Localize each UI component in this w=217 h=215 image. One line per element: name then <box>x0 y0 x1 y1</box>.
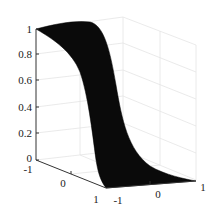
right-tick-label: 1 <box>200 181 206 193</box>
z-tick-label: 0.6 <box>18 74 32 86</box>
right-tick-label: 0 <box>155 188 161 200</box>
z-tick-label: 0.4 <box>18 101 32 113</box>
z-tick-label: 0.8 <box>18 48 32 60</box>
left-tick-label: -1 <box>23 163 32 175</box>
left-tick-label: 1 <box>93 193 99 205</box>
surface <box>36 21 196 188</box>
left-tick-label: 0 <box>60 177 66 189</box>
z-tick-label: 0.2 <box>18 127 32 139</box>
right-tick-label: -1 <box>113 194 122 206</box>
surface-plot: 1 0.8 0.6 0.4 0.2 0 -1 0 1 -1 0 1 <box>0 0 217 215</box>
z-tick-label: 1 <box>27 23 33 35</box>
